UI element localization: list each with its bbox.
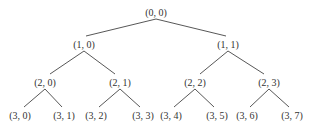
node-3-2: (3, 2) — [85, 110, 107, 122]
node-2-0: (2, 0) — [34, 77, 56, 89]
edge-n11-n23 — [228, 51, 264, 74]
edge-n11-n22 — [200, 51, 228, 74]
edge-n20-n30 — [24, 89, 45, 107]
node-2-3: (2, 3) — [258, 77, 280, 89]
node-1-1: (1, 1) — [217, 39, 239, 51]
edge-n22-n35 — [195, 89, 214, 107]
edge-n23-n36 — [250, 89, 269, 107]
node-3-7: (3, 7) — [281, 110, 303, 122]
node-3-3: (3, 3) — [132, 110, 154, 122]
edge-n20-n31 — [45, 89, 62, 107]
tree-diagram: (0, 0) (1, 0) (1, 1) (2, 0) (2, 1) (2, 2… — [0, 0, 311, 130]
node-0-0: (0, 0) — [145, 7, 167, 19]
node-1-0: (1, 0) — [73, 39, 95, 51]
edge-n00-n11 — [156, 19, 226, 36]
node-3-1: (3, 1) — [53, 110, 75, 122]
edge-n23-n37 — [269, 89, 289, 107]
node-2-2: (2, 2) — [184, 77, 206, 89]
edge-n21-n32 — [99, 89, 120, 107]
edge-n22-n34 — [174, 89, 195, 107]
node-2-1: (2, 1) — [109, 77, 131, 89]
tree-nodes: (0, 0) (1, 0) (1, 1) (2, 0) (2, 1) (2, 2… — [9, 7, 303, 122]
node-3-6: (3, 6) — [236, 110, 258, 122]
edge-n10-n21 — [84, 51, 115, 74]
node-3-4: (3, 4) — [160, 110, 182, 122]
node-3-0: (3, 0) — [9, 110, 31, 122]
edge-n21-n33 — [120, 89, 140, 107]
edge-n10-n20 — [50, 51, 84, 74]
node-3-5: (3, 5) — [206, 110, 228, 122]
edge-n00-n10 — [86, 19, 156, 36]
tree-edges — [24, 19, 289, 107]
